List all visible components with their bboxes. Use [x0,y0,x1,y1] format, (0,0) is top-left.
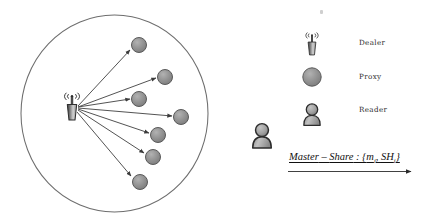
formula-dash: – [319,151,330,162]
proxy-node-3[interactable] [132,92,147,107]
legend-reader-icon [304,104,320,125]
diagram-canvas: Dealer Proxy Reader Master – Share : {mi… [0,0,424,224]
master-share-label: Master – Share : {mi, SHi} [289,152,400,165]
reader-person-icon[interactable] [253,124,272,148]
proxy-node-2[interactable] [158,70,173,85]
legend-proxy-icon [303,68,321,86]
formula-share: Share [329,151,353,162]
legend-label-dealer: Dealer [359,39,385,46]
formula-close-brace: } [396,151,400,162]
artifact-speck [320,10,323,14]
legend-dealer-icon [306,32,318,54]
proxy-node-5[interactable] [151,128,166,143]
proxy-node-6[interactable] [146,150,161,165]
proxy-node-7[interactable] [133,175,148,190]
formula-colon: : { [353,151,366,162]
legend-label-reader: Reader [359,106,387,113]
legend-label-proxy: Proxy [359,73,381,80]
proxy-node-4[interactable] [174,110,189,125]
formula-m: m [366,151,374,162]
proxy-node-1[interactable] [132,38,147,53]
formula-master: Master [289,151,319,162]
formula-sh: SH [381,151,394,162]
